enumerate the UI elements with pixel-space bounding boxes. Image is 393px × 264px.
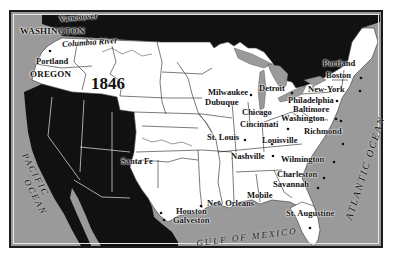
label-oregon-territory: OREGON	[30, 70, 71, 79]
label-portland-or: Portland	[36, 57, 68, 66]
label-cincinnati: Cincinnati	[240, 120, 278, 129]
label-nashville: Nashville	[231, 152, 265, 161]
label-savannah: Savannah	[273, 180, 309, 189]
label-galveston: Galveston	[173, 216, 209, 225]
label-wilmington: Wilmington	[281, 155, 324, 164]
label-boston: Boston	[326, 71, 351, 80]
label-st-louis: St. Louis	[207, 133, 239, 142]
label-portland-me: Portland	[323, 59, 355, 68]
label-new-york: New-York	[308, 85, 345, 94]
label-detroit: Detroit	[259, 84, 285, 93]
label-charleston: Charleston	[277, 170, 317, 179]
label-washington-territory: WASHINGTON	[20, 27, 85, 36]
label-dubuque: Dubuque	[205, 98, 239, 107]
label-milwaukee: Milwaukee	[208, 88, 248, 97]
label-st-augustine: St. Augustine	[286, 209, 334, 218]
label-chicago: Chicago	[242, 108, 272, 117]
label-louisville: Louisville	[262, 136, 297, 145]
label-year: 1846	[91, 75, 125, 92]
label-washington-dc: Washington	[281, 114, 324, 123]
label-richmond: Richmond	[304, 127, 342, 136]
label-santa-fe: Santa Fe	[121, 157, 153, 166]
label-new-orleans: New Orleans	[207, 199, 254, 208]
